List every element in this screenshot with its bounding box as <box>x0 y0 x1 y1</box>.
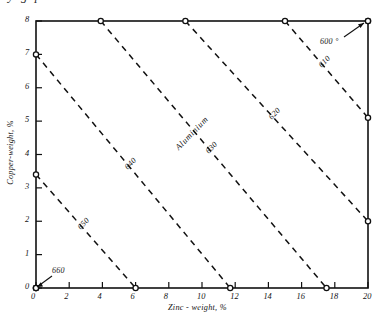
x-tick-label: 20 <box>363 292 371 301</box>
x-tick-label: 12 <box>230 292 238 301</box>
y-tick-label: 1 <box>25 249 29 258</box>
annotation-arrows <box>37 23 364 287</box>
y-tick-label: 3 <box>25 182 29 191</box>
endpoint-marker <box>365 115 370 120</box>
endpoint-marker <box>33 172 38 177</box>
y-axis-ticks <box>36 21 42 288</box>
isotherm-label-600: 600 ° <box>320 37 339 46</box>
isotherm-line-630 <box>101 21 327 288</box>
y-tick-label: 8 <box>25 15 29 24</box>
x-axis-ticks <box>36 282 368 288</box>
endpoint-marker <box>324 285 329 290</box>
x-tick-label: 2 <box>64 292 68 301</box>
isotherm-line-610 <box>285 21 368 118</box>
x-tick-label: 16 <box>297 292 305 301</box>
phase-diagram-chart: Zinc - weight, % Copper-weight, % 024681… <box>0 0 382 327</box>
x-tick-label: 10 <box>197 292 205 301</box>
y-tick-label: 7 <box>25 48 29 57</box>
x-tick-label: 8 <box>164 292 168 301</box>
y-tick-label: 0 <box>25 282 29 291</box>
isotherm-label-660: 660 <box>52 266 65 275</box>
isotherm-line-620 <box>185 21 368 221</box>
chart-svg <box>0 0 382 327</box>
x-tick-label: 0 <box>31 292 35 301</box>
x-axis-label: Zinc - weight, % <box>168 303 227 312</box>
y-tick-label: 4 <box>25 149 29 158</box>
y-tick-label: 2 <box>25 215 29 224</box>
endpoint-marker <box>365 18 370 23</box>
endpoint-marker <box>228 285 233 290</box>
isotherm-line-640 <box>36 54 230 288</box>
y-tick-label: 6 <box>25 82 29 91</box>
x-tick-label: 6 <box>131 292 135 301</box>
endpoint-marker <box>365 219 370 224</box>
endpoint-marker <box>33 52 38 57</box>
y-tick-label: 5 <box>25 115 29 124</box>
endpoint-marker <box>133 285 138 290</box>
y-axis-label: Copper-weight, % <box>6 120 15 185</box>
endpoint-marker <box>98 18 103 23</box>
x-tick-label: 14 <box>263 292 271 301</box>
endpoint-marker <box>183 18 188 23</box>
endpoint-marker <box>282 18 287 23</box>
x-tick-label: 18 <box>330 292 338 301</box>
isotherm-line-650 <box>36 175 136 288</box>
x-tick-label: 4 <box>97 292 101 301</box>
